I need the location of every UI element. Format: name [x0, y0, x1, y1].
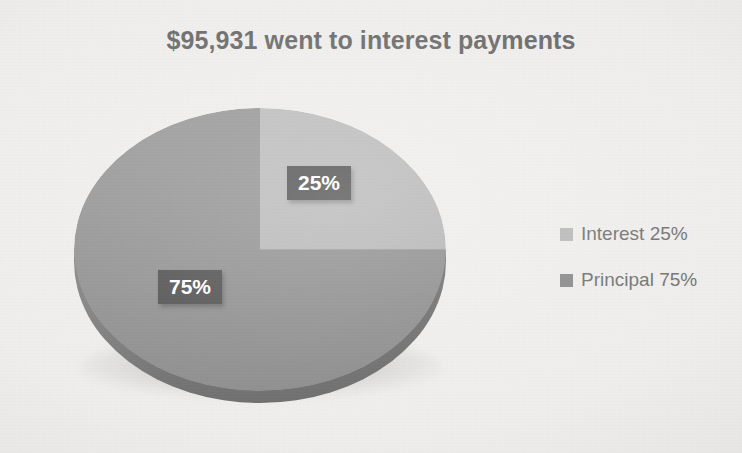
chart-legend: Interest 25% Principal 75%: [560, 222, 736, 314]
data-label-principal: 75%: [158, 270, 222, 304]
pie-chart: 25% 75%: [72, 108, 448, 400]
chart-title: $95,931 went to interest payments: [0, 26, 742, 55]
slide-canvas: $95,931 went to interest payments 25% 75…: [0, 0, 742, 453]
legend-swatch-principal: [560, 274, 573, 287]
legend-label-principal: Principal 75%: [581, 269, 697, 291]
legend-item-principal[interactable]: Principal 75%: [560, 268, 736, 292]
legend-label-interest: Interest 25%: [581, 223, 688, 245]
pie-top-face: [74, 108, 446, 391]
data-label-interest: 25%: [287, 166, 351, 200]
legend-item-interest[interactable]: Interest 25%: [560, 222, 736, 246]
legend-swatch-interest: [560, 228, 573, 241]
